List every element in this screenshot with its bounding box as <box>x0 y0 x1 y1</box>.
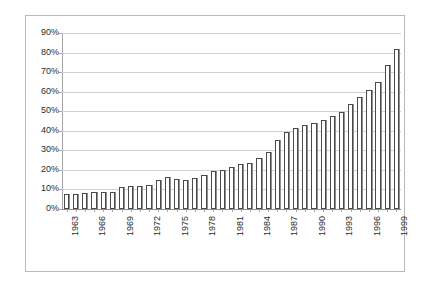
bar <box>128 186 133 209</box>
x-axis-tick-label: 1990 <box>318 216 327 236</box>
x-axis-tick <box>296 209 297 212</box>
x-axis-tick-label: 1993 <box>345 216 354 236</box>
bar <box>183 180 188 209</box>
bar <box>220 170 225 209</box>
y-axis-tick <box>59 189 62 190</box>
x-axis-tick-label: 1999 <box>400 216 409 236</box>
bar <box>229 167 234 209</box>
x-axis-tick <box>286 209 287 212</box>
x-axis-tick <box>112 209 113 212</box>
x-axis-tick <box>250 209 251 212</box>
y-axis-tick-label: 50% <box>41 106 59 115</box>
bar <box>101 192 106 209</box>
plot-area <box>62 33 401 209</box>
x-axis-tick <box>351 209 352 212</box>
bar <box>266 152 271 209</box>
x-axis-tick <box>241 209 242 212</box>
x-axis-tick <box>396 209 397 212</box>
x-axis-tick <box>103 209 104 212</box>
x-axis-tick <box>232 209 233 212</box>
bar <box>192 178 197 209</box>
x-axis-tick <box>94 209 95 212</box>
y-axis-tick-label: 30% <box>41 145 59 154</box>
bar <box>174 179 179 209</box>
x-axis-tick <box>323 209 324 212</box>
x-axis-tick-label: 1984 <box>263 216 272 236</box>
y-axis-tick <box>59 170 62 171</box>
bar <box>256 158 261 209</box>
bar <box>385 65 390 209</box>
y-axis-tick-label: 10% <box>41 184 59 193</box>
bar <box>275 140 280 209</box>
x-axis-tick <box>213 209 214 212</box>
bar <box>238 164 243 209</box>
bar <box>201 175 206 209</box>
x-axis-tick-label: 1963 <box>71 216 80 236</box>
bar <box>211 171 216 209</box>
x-axis-tick <box>140 209 141 212</box>
bar <box>339 112 344 209</box>
x-axis-tick <box>378 209 379 212</box>
x-axis-tick <box>122 209 123 212</box>
bar <box>321 120 326 209</box>
bar <box>82 193 87 209</box>
bar <box>91 192 96 209</box>
y-axis-tick-label: 20% <box>41 165 59 174</box>
x-axis-tick <box>67 209 68 212</box>
bar <box>165 177 170 209</box>
x-axis-tick <box>360 209 361 212</box>
x-axis-tick <box>167 209 168 212</box>
bar <box>366 90 371 209</box>
y-axis-tick-label: 70% <box>41 67 59 76</box>
bar <box>302 125 307 209</box>
x-axis-tick <box>314 209 315 212</box>
y-axis-tick-label: 0% <box>46 204 59 213</box>
y-axis-tick <box>59 209 62 210</box>
bar <box>394 49 399 209</box>
x-axis-tick <box>158 209 159 212</box>
x-axis-tick-label: 1975 <box>181 216 190 236</box>
gridline <box>62 72 401 73</box>
y-axis-labels: 0%10%20%30%40%50%60%70%80%90% <box>27 0 59 288</box>
x-axis-tick <box>85 209 86 212</box>
x-axis-tick <box>387 209 388 212</box>
bar <box>119 187 124 209</box>
y-axis-tick <box>59 72 62 73</box>
bar <box>375 82 380 209</box>
gridline <box>62 33 401 34</box>
y-axis-tick <box>59 53 62 54</box>
gridline <box>62 92 401 93</box>
y-axis-tick <box>59 92 62 93</box>
x-axis-tick-label: 1996 <box>373 216 382 236</box>
bar <box>156 180 161 209</box>
x-axis-tick-label: 1987 <box>290 216 299 236</box>
y-axis-tick <box>59 33 62 34</box>
x-axis-tick <box>277 209 278 212</box>
x-axis-tick <box>177 209 178 212</box>
x-axis-tick <box>268 209 269 212</box>
bar <box>146 185 151 209</box>
x-axis-tick-label: 1972 <box>153 216 162 236</box>
chart-container: 0%10%20%30%40%50%60%70%80%90% 1963196619… <box>0 0 429 288</box>
y-axis-tick-label: 40% <box>41 126 59 135</box>
y-axis-tick-label: 80% <box>41 48 59 57</box>
bar <box>348 104 353 209</box>
bar <box>73 194 78 209</box>
x-axis-tick-label: 1981 <box>236 216 245 236</box>
bar <box>284 132 289 209</box>
x-axis-tick <box>332 209 333 212</box>
x-axis-tick-label: 1978 <box>208 216 217 236</box>
bar <box>293 128 298 209</box>
bar <box>64 194 69 209</box>
x-axis-tick-label: 1969 <box>126 216 135 236</box>
x-axis-tick <box>222 209 223 212</box>
bar <box>247 163 252 209</box>
x-axis-tick <box>186 209 187 212</box>
bar <box>330 116 335 209</box>
x-axis-tick-label: 1966 <box>98 216 107 236</box>
x-axis-tick <box>149 209 150 212</box>
bar <box>311 123 316 209</box>
x-axis-tick <box>204 209 205 212</box>
x-axis-tick <box>131 209 132 212</box>
bar <box>137 186 142 209</box>
